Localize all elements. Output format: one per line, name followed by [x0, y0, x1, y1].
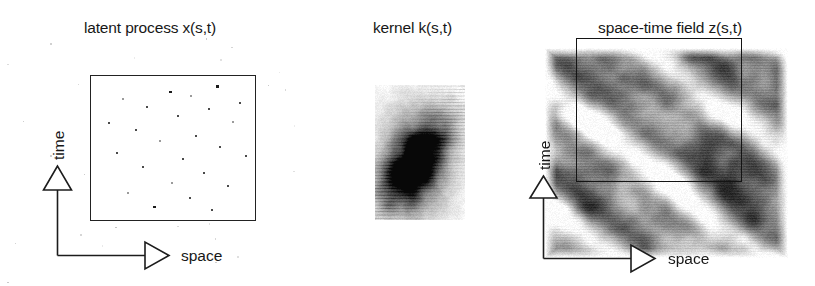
- panel-title-kernel: kernel k(s,t): [300, 18, 525, 37]
- latent-point: [216, 85, 219, 88]
- scan-speckle: [80, 234, 82, 236]
- latent-point: [182, 158, 184, 160]
- scan-speckle: [293, 171, 295, 173]
- latent-point: [127, 192, 129, 194]
- scan-speckle: [50, 43, 52, 45]
- panel-title-latent-process: latent process x(s,t): [0, 18, 300, 37]
- latent-point: [189, 197, 191, 199]
- latent-point: [203, 172, 205, 174]
- latent-point: [177, 115, 179, 117]
- latent-point: [211, 209, 213, 211]
- scan-speckle: [231, 47, 233, 49]
- scan-speckle: [23, 121, 25, 123]
- latent-point: [169, 91, 172, 94]
- scan-speckle: [7, 282, 9, 284]
- scan-speckle: [78, 84, 80, 86]
- axis-label-time-latent: time: [50, 131, 67, 160]
- latent-point: [108, 122, 110, 124]
- latent-point: [239, 102, 241, 104]
- panel-kernel: kernel k(s,t): [300, 0, 525, 286]
- scan-speckle: [294, 125, 296, 127]
- scan-speckle: [279, 72, 281, 74]
- panel-space-time-field: space-time field z(s,t) time space: [525, 0, 815, 286]
- scan-speckle: [237, 256, 239, 258]
- axis-label-space-latent: space: [181, 247, 222, 264]
- scan-speckle: [285, 89, 287, 91]
- scan-speckle: [15, 243, 17, 245]
- axis-label-time-field: time: [536, 141, 553, 170]
- latent-point: [171, 182, 173, 184]
- latent-point: [219, 146, 221, 148]
- latent-point: [116, 152, 118, 154]
- scan-speckle: [84, 174, 86, 176]
- scan-speckle: [58, 178, 60, 180]
- latent-point: [159, 140, 161, 142]
- latent-point: [190, 95, 192, 97]
- latent-point: [208, 108, 210, 110]
- panel-title-space-time-field: space-time field z(s,t): [525, 18, 815, 37]
- scan-speckle: [115, 227, 117, 229]
- latent-point: [227, 185, 229, 187]
- axis-label-space-field: space: [668, 250, 709, 267]
- scan-speckle: [215, 238, 217, 240]
- scan-speckle: [134, 57, 136, 59]
- scan-speckle: [268, 85, 270, 87]
- scan-speckle: [177, 226, 179, 228]
- latent-point: [135, 129, 137, 131]
- latent-point: [245, 155, 247, 157]
- latent-point: [146, 106, 148, 108]
- panel-latent-process: latent process x(s,t) time space: [0, 0, 300, 286]
- scan-speckle: [220, 59, 222, 61]
- kernel-heatmap-image: [375, 85, 465, 220]
- field-domain-box: [576, 38, 742, 182]
- arrowhead-space: [145, 242, 169, 269]
- latent-point: [153, 206, 156, 209]
- scan-speckle: [209, 223, 211, 225]
- scan-speckle: [149, 250, 151, 252]
- scan-speckle: [102, 245, 104, 247]
- scan-speckle: [7, 64, 9, 66]
- latent-point: [122, 98, 124, 100]
- latent-point: [195, 135, 197, 137]
- latent-domain-box: [90, 75, 256, 221]
- scan-speckle: [49, 178, 51, 180]
- figure-canvas: latent process x(s,t) time space kernel …: [0, 0, 815, 286]
- scan-speckle: [206, 38, 208, 40]
- latent-point: [232, 121, 234, 123]
- latent-point: [142, 166, 144, 168]
